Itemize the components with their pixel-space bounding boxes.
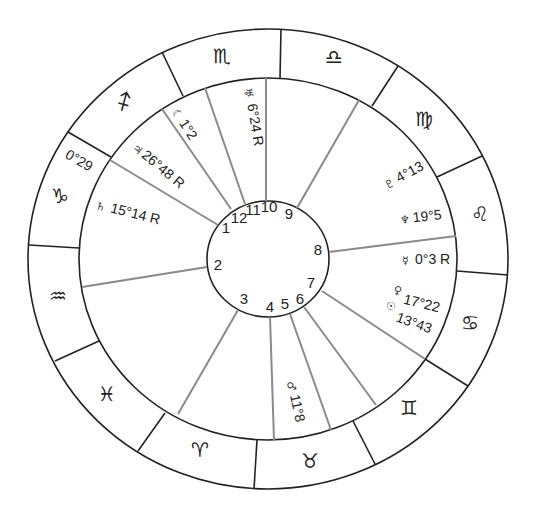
house-3: 3 [240,290,248,307]
leo-icon: ♌ [471,202,489,226]
house-9: 9 [285,205,293,222]
zodiac-inner-ring [79,78,457,440]
cusp-degree-label: 0°29 [63,146,96,174]
planet-jupiter: ♃ 26°48 R [130,139,189,192]
uranus-icon: ♅ [241,87,256,99]
planet-moon: ☾ 1°2 [169,105,201,143]
planet-neptune: ♆ 19°5 [399,206,443,227]
cancer-icon: ♋ [461,311,479,335]
uranus-position: 6°24 R [244,102,267,147]
moon-position: 1°2 [176,116,201,143]
mercury-icon: ☿ [402,254,409,267]
house-8: 8 [314,241,322,258]
capricorn-icon: ♑ [51,184,69,208]
mars-icon: ♂ [284,380,299,392]
taurus-icon: ♉ [301,449,319,473]
aquarius-icon: ♒ [49,284,67,308]
aries-icon: ♈ [191,438,209,462]
planet-mars: ♂ 11°8 [284,379,309,424]
mercury-position: 0°3 R [415,251,450,267]
house-1: 1 [222,219,230,236]
mars-position: 11°8 [287,393,308,424]
house-2: 2 [214,256,222,273]
jupiter-position: 26°48 R [139,147,188,192]
house-7: 7 [307,274,315,291]
gemini-icon: ♊ [400,396,418,420]
scorpio-icon: ♏ [213,44,231,68]
sun-icon: ☉ [384,299,398,315]
house-4: 4 [266,298,274,315]
sagittarius-icon: ♐ [110,87,138,117]
planet-mercury: ☿ 0°3 R [402,251,450,267]
house-11: 11 [245,201,261,218]
house-numbers: 1 2 3 4 5 6 7 8 9 10 11 12 [214,198,322,315]
planet-saturn: ♄ 15°14 R [94,196,162,228]
neptune-position: 19°5 [412,206,443,225]
pluto-icon: ♇ [382,176,397,192]
pluto-position: 4°13 [393,158,426,186]
house-10: 10 [261,198,278,215]
house-lines [82,78,456,440]
saturn-position: 15°14 R [109,200,162,228]
planet-uranus: ♅ 6°24 R [241,86,267,147]
house-12: 12 [231,209,248,226]
virgo-icon: ♍ [415,107,433,131]
neptune-icon: ♆ [399,213,410,227]
pisces-icon: ♓ [98,382,116,406]
natal-chart-wheel: ♏ ♎ ♍ ♌ ♋ ♊ ♉ ♈ ♓ ♒ ♑ ♐ 0°29 1 2 3 4 5 6… [0,0,535,523]
libra-icon: ♎ [325,45,343,69]
house-6: 6 [296,290,304,307]
saturn-icon: ♄ [94,199,107,214]
planet-pluto: ♇ 4°13 [381,158,427,193]
venus-icon: ♀ [392,283,403,298]
house-5: 5 [281,295,289,312]
sun-position: 13°43 [394,309,434,337]
